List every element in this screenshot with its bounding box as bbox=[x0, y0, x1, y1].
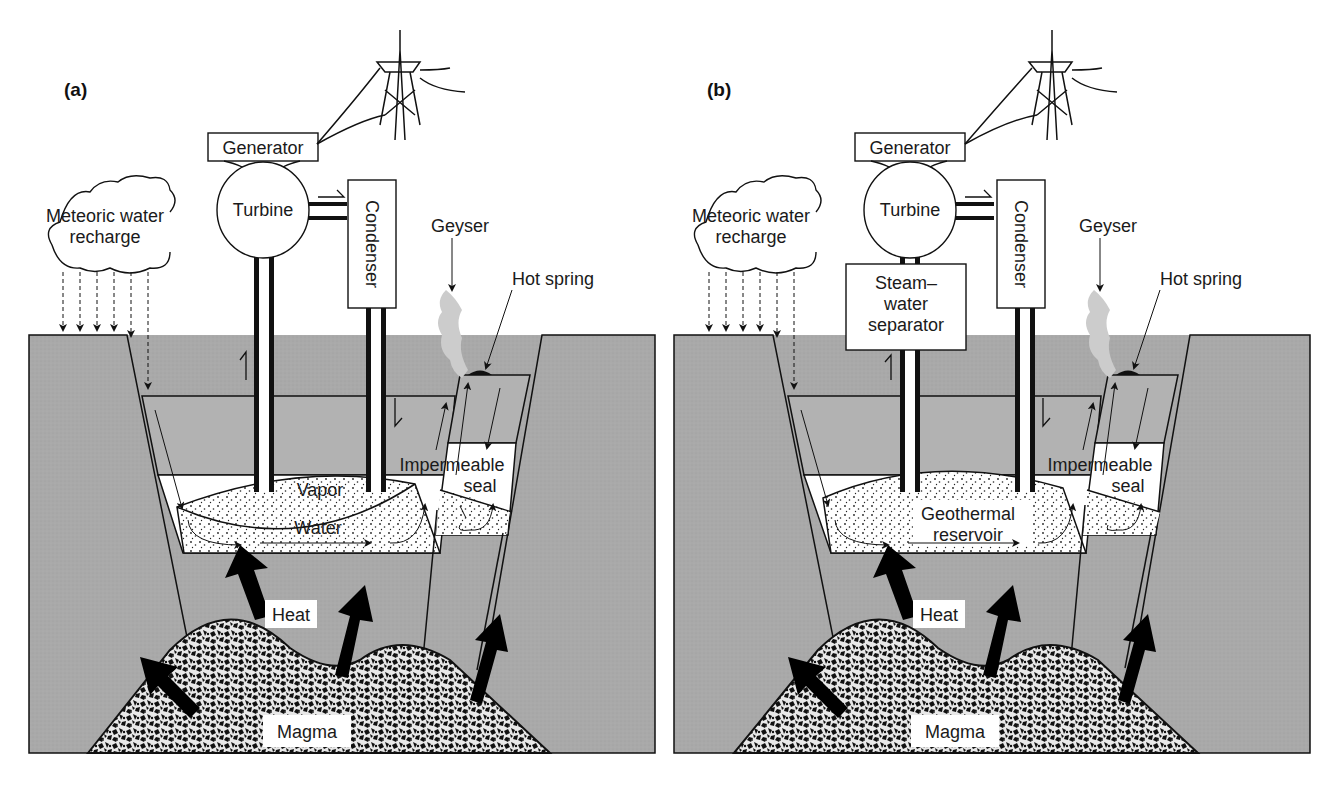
panel-b: (b) Heat Magma bbox=[663, 0, 1327, 804]
cloud-label-line1: Meteoric water bbox=[692, 206, 810, 226]
turbine-label: Turbine bbox=[233, 200, 293, 220]
transmission-tower-icon bbox=[965, 30, 1117, 144]
heat-label: Heat bbox=[272, 605, 310, 625]
magma-label: Magma bbox=[925, 722, 986, 742]
cloud-label-line2: recharge bbox=[69, 227, 140, 247]
water-label: Water bbox=[294, 518, 341, 538]
panel-letter: (b) bbox=[707, 79, 731, 100]
heat-label: Heat bbox=[920, 605, 958, 625]
cloud-label-line2: recharge bbox=[715, 227, 786, 247]
injection-well bbox=[1015, 306, 1035, 492]
steam-flow-arrow bbox=[318, 190, 344, 197]
steam-flow-arrow bbox=[965, 190, 991, 197]
hot-spring-label: Hot spring bbox=[512, 269, 594, 289]
vapor-label: Vapor bbox=[297, 480, 344, 500]
turbine-label: Turbine bbox=[880, 200, 940, 220]
production-well bbox=[254, 256, 274, 492]
condenser-label: Condenser bbox=[1011, 200, 1031, 288]
cloud-label-line1: Meteoric water bbox=[46, 206, 164, 226]
seal-label-line2: seal bbox=[1111, 476, 1144, 496]
hot-spring-block bbox=[1095, 375, 1178, 443]
hot-spring-label: Hot spring bbox=[1160, 269, 1242, 289]
separator-label-line3: separator bbox=[868, 315, 944, 335]
generator-label: Generator bbox=[222, 138, 303, 158]
separator-label-line1: Steam– bbox=[875, 273, 937, 293]
reservoir-label-line2: reservoir bbox=[933, 525, 1003, 545]
panel-letter: (a) bbox=[64, 79, 87, 100]
hot-spring-block bbox=[448, 375, 530, 443]
condenser-label: Condenser bbox=[362, 200, 382, 288]
injection-well bbox=[366, 306, 386, 492]
seal-label-line1: Impermeable bbox=[399, 455, 504, 475]
generator-label: Generator bbox=[869, 138, 950, 158]
separator-label-line2: water bbox=[883, 294, 928, 314]
transmission-tower-icon bbox=[317, 30, 465, 144]
geyser-label: Geyser bbox=[1079, 216, 1137, 236]
seal-label-line2: seal bbox=[463, 476, 496, 496]
panel-a: (a) Heat Magma bbox=[0, 0, 664, 804]
geyser-label: Geyser bbox=[431, 216, 489, 236]
magma-label: Magma bbox=[277, 722, 338, 742]
reservoir-label-line1: Geothermal bbox=[921, 504, 1015, 524]
seal-label-line1: Impermeable bbox=[1047, 455, 1152, 475]
